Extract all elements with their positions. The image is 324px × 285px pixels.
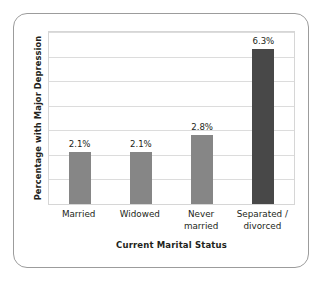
chart-figure: Percentage with Major Depression 2.1%2.1… [0,0,324,285]
bar-value-label: 2.1% [58,139,102,149]
tick-label-line: married [170,221,232,233]
tick-label-line: Married [48,209,110,221]
bar-value-label: 2.8% [180,122,224,132]
x-axis-tick-label: Nevermarried [170,209,232,232]
tick-label-line: divorced [231,221,293,233]
x-axis-tick-labels: MarriedWidowedNevermarriedSeparated /div… [48,207,295,239]
bar [252,49,274,204]
gridline [49,32,294,33]
x-axis-tick-label: Separated /divorced [231,209,293,232]
x-axis-tick-label: Widowed [109,209,171,221]
y-axis-title: Percentage with Major Depression [30,28,46,208]
bar [191,135,213,204]
tick-label-line: Widowed [109,209,171,221]
bar-value-label: 2.1% [119,139,163,149]
bar [130,152,152,204]
plot-area: 2.1%2.1%2.8%6.3% [48,31,295,205]
bar [69,152,91,204]
tick-label-line: Never [170,209,232,221]
tick-label-line: Separated / [231,209,293,221]
x-axis-tick-label: Married [48,209,110,221]
x-axis-title: Current Marital Status [48,240,295,250]
bar-value-label: 6.3% [241,36,285,46]
